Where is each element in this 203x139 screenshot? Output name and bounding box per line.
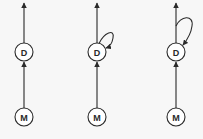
- node-d: D: [15, 43, 33, 61]
- feedback-loop-edge: [176, 18, 192, 45]
- node-d-label: D: [94, 48, 101, 58]
- node-m-label: M: [172, 113, 180, 123]
- graph-2: D M: [88, 3, 113, 126]
- graph-1: D M: [15, 3, 33, 126]
- node-m: M: [88, 108, 106, 126]
- node-m: M: [167, 108, 185, 126]
- node-d: D: [88, 43, 106, 61]
- node-m-label: M: [20, 113, 28, 123]
- node-m: M: [15, 108, 33, 126]
- node-d: D: [167, 43, 185, 61]
- node-d-label: D: [173, 48, 180, 58]
- node-d-label: D: [21, 48, 28, 58]
- node-m-label: M: [93, 113, 101, 123]
- diagram-canvas: D M D M D M: [0, 0, 203, 139]
- graph-3: D M: [167, 3, 192, 126]
